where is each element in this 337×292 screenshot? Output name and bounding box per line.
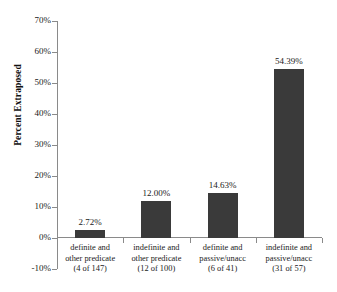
bar-value-label: 54.39% <box>275 56 303 66</box>
plot-area: 2.72%12.00%14.63%54.39% <box>57 21 322 269</box>
x-category-label-line: passive/unacc <box>190 254 256 265</box>
y-axis-tick-labels: 70%60%50%40%30%20%10%0%-10% <box>0 0 51 292</box>
y-tick-label: -10% <box>5 264 51 273</box>
y-tick-label: 10% <box>5 202 51 211</box>
y-tick-label: 70% <box>5 16 51 25</box>
bar-group: 54.39% <box>256 21 322 238</box>
x-category-label-line: (12 of 100) <box>123 264 189 275</box>
y-tick-label: 0% <box>5 233 51 242</box>
bar[interactable] <box>75 230 105 238</box>
x-category-label-line: passive/unacc <box>256 254 322 265</box>
y-tick-label: 60% <box>5 47 51 56</box>
bar[interactable] <box>274 69 304 238</box>
x-category-label: definite andpassive/unacc(6 of 41) <box>190 243 256 275</box>
bar[interactable] <box>208 193 238 238</box>
x-category-label-line: other predicate <box>57 254 123 265</box>
bar-value-label: 2.72% <box>79 217 102 227</box>
x-category-label-line: indefinite and <box>256 243 322 254</box>
x-category-label-line: definite and <box>57 243 123 254</box>
x-category-label-line: other predicate <box>123 254 189 265</box>
x-category-label-line: (31 of 57) <box>256 264 322 275</box>
bar-group: 12.00% <box>123 21 189 238</box>
y-tick-label: 30% <box>5 140 51 149</box>
x-category-label: definite andother predicate(4 of 147) <box>57 243 123 275</box>
x-category-label-line: definite and <box>190 243 256 254</box>
bar[interactable] <box>141 201 171 238</box>
bar-group: 2.72% <box>57 21 123 238</box>
x-category-label-line: indefinite and <box>123 243 189 254</box>
bar-chart: Percent Extraposed 70%60%50%40%30%20%10%… <box>0 0 337 292</box>
y-tick-label: 50% <box>5 78 51 87</box>
x-category-label: indefinite andother predicate(12 of 100) <box>123 243 189 275</box>
y-tick-label: 40% <box>5 109 51 118</box>
bar-value-label: 14.63% <box>209 180 237 190</box>
x-axis-category-labels: definite andother predicate(4 of 147)ind… <box>57 243 322 291</box>
bar-value-label: 12.00% <box>143 188 171 198</box>
y-tick-label: 20% <box>5 171 51 180</box>
x-tick-mark <box>322 238 323 243</box>
x-category-label-line: (4 of 147) <box>57 264 123 275</box>
bar-group: 14.63% <box>190 21 256 238</box>
x-category-label-line: (6 of 41) <box>190 264 256 275</box>
x-category-label: indefinite andpassive/unacc(31 of 57) <box>256 243 322 275</box>
